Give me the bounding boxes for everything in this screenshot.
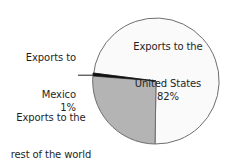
slice-label-mexico-line1: Exports to — [26, 52, 76, 63]
slice-label-united-states-line2: United States — [135, 78, 201, 89]
slice-label-rest-of-world-line2: rest of the world — [11, 149, 92, 158]
pie-chart-figure: Exports to the United States 82% Exports… — [0, 0, 227, 158]
slice-value-united-states: 82% — [124, 91, 212, 104]
slice-label-united-states: Exports to the United States 82% — [124, 28, 212, 116]
slice-label-rest-of-world: Exports to the rest of the world 17% — [4, 99, 98, 158]
slice-label-rest-of-world-line1: Exports to the — [16, 112, 85, 123]
slice-label-united-states-line1: Exports to the — [133, 41, 202, 52]
